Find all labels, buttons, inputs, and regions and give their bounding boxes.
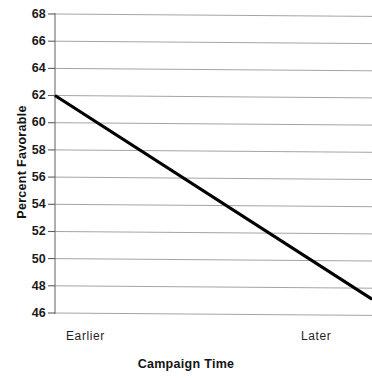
y-tick-text: 66 [20,35,46,48]
y-tick-text: 50 [20,253,46,266]
gridline-58 [55,150,372,152]
y-tick-text: 46 [20,307,46,320]
x-tick-label-earlier: Earlier [66,329,105,343]
gridline-46 [55,313,372,315]
data-series-percent-favorable [55,96,372,300]
y-axis-title: Percent Favorable [15,92,29,232]
y-tick-label-46: 46 [20,307,46,319]
gridline-68 [55,14,372,16]
x-tick-label-later: Later [301,329,331,343]
chart-plot-area [0,0,372,379]
y-tick-marks [48,14,55,313]
y-tick-label-64: 64 [20,62,46,74]
y-tick-label-50: 50 [20,253,46,265]
gridline-66 [55,41,372,43]
y-tick-label-48: 48 [20,280,46,292]
gridline-48 [55,286,372,288]
gridline-56 [55,177,372,179]
y-tick-text: 64 [20,62,46,75]
gridline-50 [55,259,372,261]
y-tick-label-66: 66 [20,35,46,47]
gridline-54 [55,204,372,206]
gridline-52 [55,232,372,234]
y-tick-label-68: 68 [20,8,46,20]
x-axis-title: Campaign Time [0,357,372,371]
gridline-64 [55,68,372,70]
y-tick-text: 48 [20,280,46,293]
y-tick-text: 68 [20,8,46,21]
gridline-62 [55,96,372,98]
line-chart-figure: 68 66 64 62 60 58 56 54 52 50 48 46 Perc… [0,0,372,379]
